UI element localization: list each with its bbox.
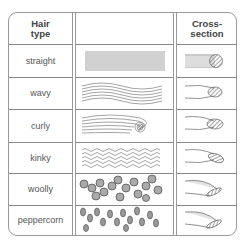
hair-pattern-illustrations [0,0,246,244]
